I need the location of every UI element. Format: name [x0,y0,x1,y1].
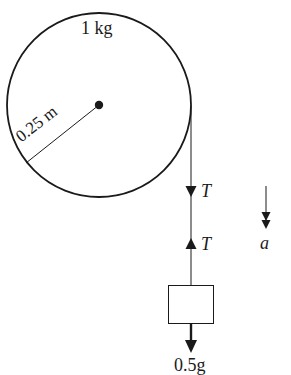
acceleration-arrow-head-2-icon [262,220,271,229]
tension-label-lower: T [201,235,211,253]
tension-label-upper: T [201,182,211,200]
weight-label-text: 0.5g [174,355,206,375]
pulley-mass-label: 1 kg [81,19,113,37]
acceleration-arrow-head-1-icon [262,212,271,221]
weight-arrow-head-icon [185,340,197,353]
acceleration-label: a [260,234,269,252]
tension-arrow-down-icon [186,186,197,197]
tension-arrow-up-icon [186,238,197,249]
hanging-mass-box [169,286,214,324]
weight-label: 0.5g [174,356,206,374]
